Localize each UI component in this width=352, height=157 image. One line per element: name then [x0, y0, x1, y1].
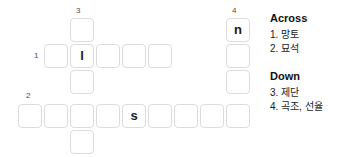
crossword-page: l s n 3 4 1 2 Across 1. 망토 2. 묘석: [0, 0, 352, 157]
clue-number-4: 4: [232, 7, 236, 15]
cell-r4c2[interactable]: [70, 130, 94, 154]
cell-r3c4[interactable]: s: [122, 104, 146, 128]
across-clue-1: 1. 망토: [270, 28, 352, 42]
cell-r0c8[interactable]: n: [226, 18, 250, 42]
cell-r1c5[interactable]: [148, 44, 172, 68]
cell-r1c8[interactable]: [226, 44, 250, 68]
down-clue-4: 4. 곡조, 선율: [270, 100, 352, 114]
cell-r3c2[interactable]: [70, 104, 94, 128]
cell-r3c7[interactable]: [200, 104, 224, 128]
across-clue-2: 2. 묘석: [270, 42, 352, 56]
cell-r2c2[interactable]: [70, 70, 94, 94]
cell-r0c2[interactable]: [70, 18, 94, 42]
clue-number-1: 1: [34, 52, 38, 60]
across-heading: Across: [270, 12, 352, 25]
cell-r3c1[interactable]: [44, 104, 68, 128]
cell-r2c8[interactable]: [226, 70, 250, 94]
cell-r3c3[interactable]: [96, 104, 120, 128]
across-clue-group: Across 1. 망토 2. 묘석: [270, 12, 352, 56]
crossword-grid: l s n 3 4 1 2: [0, 0, 262, 157]
clue-number-2: 2: [26, 92, 30, 100]
cell-r3c0[interactable]: [18, 104, 42, 128]
cell-r1c2[interactable]: l: [70, 44, 94, 68]
cell-r1c1[interactable]: [44, 44, 68, 68]
down-clue-3: 3. 제단: [270, 86, 352, 100]
down-clue-group: Down 3. 제단 4. 곡조, 선율: [270, 70, 352, 114]
cell-r3c5[interactable]: [148, 104, 172, 128]
clue-panel: Across 1. 망토 2. 묘석 Down 3. 제단 4. 곡조, 선율: [270, 12, 352, 114]
cell-r3c6[interactable]: [174, 104, 198, 128]
cell-r3c8[interactable]: [226, 104, 250, 128]
cell-r1c3[interactable]: [96, 44, 120, 68]
clue-number-3: 3: [76, 7, 80, 15]
cell-r1c4[interactable]: [122, 44, 146, 68]
down-heading: Down: [270, 70, 352, 83]
